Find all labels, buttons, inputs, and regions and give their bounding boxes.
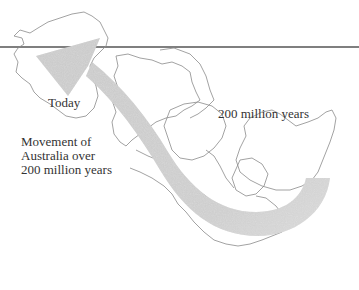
caption-line-1: Movement of — [21, 135, 112, 149]
caption-line-2: Australia over — [21, 149, 112, 163]
caption-line-3: 200 million years — [21, 163, 112, 177]
landmass-stage-3 — [164, 102, 226, 160]
diagram-caption: Movement of Australia over 200 million y… — [21, 135, 112, 177]
landmass-stage-2 — [160, 48, 214, 118]
landmass-stage-8 — [206, 150, 234, 188]
label-today: Today — [48, 96, 80, 110]
drift-diagram: Today 200 million years Movement of Aust… — [0, 0, 359, 290]
label-200-million-years: 200 million years — [218, 107, 309, 121]
